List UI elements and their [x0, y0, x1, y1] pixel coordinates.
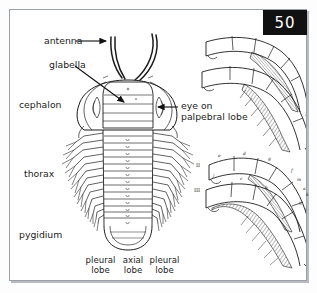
label-pleural-lobe-right: pleural lobe [147, 255, 182, 275]
figure-root: e d g j c f m a b h k i II III antenna g… [0, 0, 317, 293]
label-pygidium: pygidium [19, 229, 62, 240]
label-thorax: thorax [24, 168, 54, 179]
label-axial-lobe: axial lobe [119, 255, 147, 275]
page-number-badge: 50 [263, 10, 307, 35]
label-glabella: glabella [49, 59, 86, 70]
label-eye-on-palpebral-lobe: eye on palpebral lobe [181, 100, 248, 122]
figure-frame [9, 9, 307, 281]
label-cephalon: cephalon [19, 99, 62, 110]
label-antenna: antenna [44, 35, 82, 46]
label-pleural-lobe-left: pleural lobe [83, 255, 118, 275]
